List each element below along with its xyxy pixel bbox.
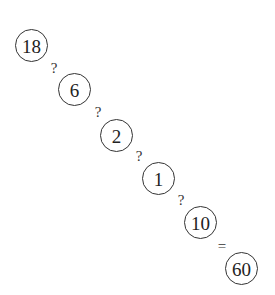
puzzle-diagram: 18 ? 6 ? 2 ? 1 ? 10 = 60 [0,0,275,295]
number-node-5: 10 [184,206,217,239]
number-node-3: 2 [100,119,133,152]
node-value: 6 [70,81,80,100]
number-node-2: 6 [58,73,91,106]
node-value: 2 [112,127,122,146]
node-value: 1 [154,170,164,189]
operator-unknown-4: ? [175,193,187,208]
operator-unknown-1: ? [48,61,60,76]
number-node-4: 1 [142,162,175,195]
node-value: 18 [22,37,41,56]
operator-unknown-2: ? [92,105,104,120]
operator-unknown-3: ? [133,149,145,164]
operator-equals: = [216,239,228,254]
number-node-1: 18 [15,29,48,62]
node-value: 60 [232,260,251,279]
node-value: 10 [191,214,210,233]
result-node: 60 [225,252,258,285]
